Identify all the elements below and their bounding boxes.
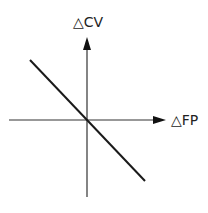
x-axis-label: △FP bbox=[171, 113, 198, 127]
y-axis-arrow-icon bbox=[83, 37, 91, 50]
diagram-svg bbox=[0, 0, 208, 213]
x-axis-arrow-icon bbox=[153, 116, 166, 124]
diagram-canvas: △CV △FP bbox=[0, 0, 208, 213]
y-axis-label: △CV bbox=[73, 15, 103, 29]
